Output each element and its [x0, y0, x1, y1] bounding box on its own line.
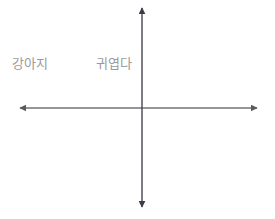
- word-label-cute: 귀엽다: [96, 57, 132, 71]
- diagram-canvas: 강아지 귀엽다: [0, 0, 275, 219]
- word-label-puppy: 강아지: [12, 57, 48, 71]
- coordinate-axes: [0, 0, 275, 219]
